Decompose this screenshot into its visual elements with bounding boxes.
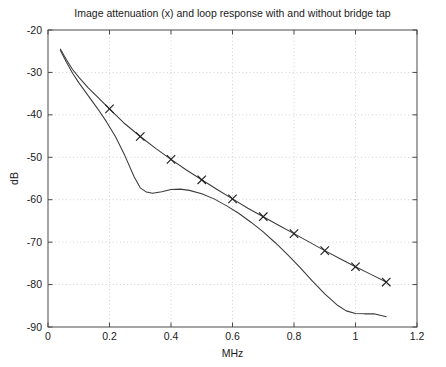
y-tick-label: -70 [27, 236, 42, 248]
x-tick-label: 0.6 [225, 330, 240, 342]
figure-canvas: 00.20.40.60.811.2-90-80-70-60-50-40-30-2… [0, 0, 446, 367]
series-line-1 [60, 50, 386, 316]
chart-plot: 00.20.40.60.811.2-90-80-70-60-50-40-30-2… [0, 0, 446, 367]
series-layer [60, 49, 390, 317]
x-axis-title: MHz [222, 347, 244, 359]
x-tick-label: 0 [45, 330, 51, 342]
y-tick-label: -20 [27, 24, 42, 36]
grid-layer [48, 30, 417, 327]
series-markers-0 [105, 105, 390, 287]
y-tick-label: -80 [27, 278, 42, 290]
x-tick-label: 0.4 [164, 330, 179, 342]
x-tick-label: 1 [353, 330, 359, 342]
x-tick-label: 1.2 [410, 330, 425, 342]
x-tick-label: 0.2 [102, 330, 117, 342]
y-tick-label: -30 [27, 66, 42, 78]
y-tick-label: -60 [27, 193, 42, 205]
y-tick-label: -40 [27, 108, 42, 120]
label-layer: 00.20.40.60.811.2-90-80-70-60-50-40-30-2… [27, 24, 425, 342]
y-axis-title: dB [8, 172, 20, 185]
plot-title: Image attenuation (x) and loop response … [74, 7, 391, 19]
y-tick-label: -50 [27, 151, 42, 163]
x-tick-label: 0.8 [287, 330, 302, 342]
y-tick-label: -90 [27, 321, 42, 333]
